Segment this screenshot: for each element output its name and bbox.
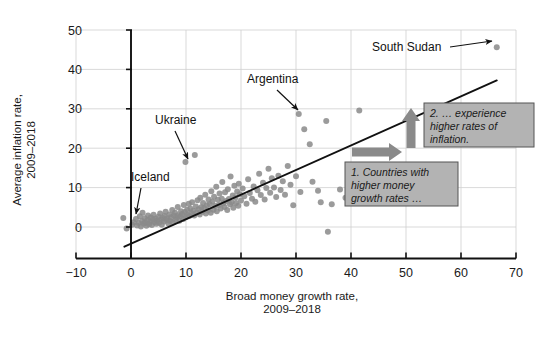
data-point bbox=[278, 187, 284, 193]
data-point bbox=[280, 178, 286, 184]
data-point bbox=[228, 174, 234, 180]
data-point bbox=[325, 229, 331, 235]
data-point bbox=[301, 126, 307, 132]
data-point bbox=[213, 184, 219, 190]
data-point bbox=[140, 210, 146, 216]
y-axis-title-line1: Average inflation rate, bbox=[11, 94, 23, 206]
data-point bbox=[329, 201, 335, 207]
callout-money-growth: 1. Countries withhigher moneygrowth rate… bbox=[345, 162, 458, 206]
data-point bbox=[315, 188, 321, 194]
y-tick-label: 20 bbox=[68, 142, 82, 156]
data-point bbox=[217, 191, 223, 197]
data-point bbox=[252, 199, 258, 205]
data-point bbox=[271, 185, 277, 191]
x-tick-label: 10 bbox=[179, 266, 193, 280]
callout-text-line: growth rates … bbox=[351, 192, 422, 204]
callout-inflation: 2. … experiencehigher rates ofinflation. bbox=[424, 103, 534, 147]
data-point bbox=[273, 194, 279, 200]
data-point bbox=[267, 190, 273, 196]
data-point bbox=[266, 166, 272, 172]
data-point bbox=[245, 176, 251, 182]
data-point bbox=[288, 182, 294, 188]
data-point bbox=[323, 118, 329, 124]
data-point bbox=[236, 181, 242, 187]
x-tick-label: 70 bbox=[509, 266, 523, 280]
data-point bbox=[225, 186, 231, 192]
y-tick-label: 40 bbox=[68, 63, 82, 77]
data-point bbox=[197, 195, 203, 201]
y-axis-title-line2: 2009–2018 bbox=[25, 121, 37, 179]
data-point bbox=[120, 215, 126, 221]
data-point bbox=[219, 179, 225, 185]
y-tick-label: 10 bbox=[68, 181, 82, 195]
data-point bbox=[494, 44, 500, 50]
callout-text-line: higher rates of bbox=[430, 120, 498, 132]
chart-background bbox=[0, 0, 543, 337]
data-point bbox=[285, 163, 291, 169]
data-point bbox=[296, 111, 302, 117]
y-tick-label: 0 bbox=[75, 221, 82, 235]
data-point bbox=[182, 159, 188, 165]
data-point bbox=[290, 202, 296, 208]
data-point bbox=[310, 179, 316, 185]
data-point bbox=[240, 185, 246, 191]
callout-text-line: 2. … experience bbox=[429, 107, 507, 119]
data-point bbox=[235, 203, 241, 209]
x-tick-label: 0 bbox=[128, 266, 135, 280]
country-label-ukraine: Ukraine bbox=[155, 113, 197, 127]
data-point bbox=[307, 141, 313, 147]
callout-text-line: higher money bbox=[351, 179, 415, 191]
data-point bbox=[224, 207, 230, 213]
data-point bbox=[282, 192, 288, 198]
data-point bbox=[263, 185, 269, 191]
country-label-argentina: Argentina bbox=[247, 72, 299, 86]
data-point bbox=[262, 196, 268, 202]
x-tick-label: 20 bbox=[234, 266, 248, 280]
callout-text-line: inflation. bbox=[430, 133, 469, 145]
data-point bbox=[356, 107, 362, 113]
x-tick-label: 40 bbox=[344, 266, 358, 280]
x-axis-title-line1: Broad money growth rate, bbox=[226, 290, 358, 302]
data-point bbox=[208, 188, 214, 194]
data-point bbox=[337, 187, 343, 193]
y-tick-label: 50 bbox=[68, 24, 82, 38]
x-tick-label: −10 bbox=[65, 266, 86, 280]
data-point bbox=[192, 152, 198, 158]
data-point bbox=[256, 171, 262, 177]
x-tick-label: 60 bbox=[454, 266, 468, 280]
x-axis-title-line2: 2009–2018 bbox=[263, 303, 321, 315]
data-point bbox=[244, 201, 250, 207]
x-tick-label: 50 bbox=[399, 266, 413, 280]
data-point bbox=[318, 199, 324, 205]
country-label-iceland: Iceland bbox=[131, 170, 170, 184]
callout-text-line: 1. Countries with bbox=[351, 166, 429, 178]
data-point bbox=[297, 189, 303, 195]
y-tick-label: 30 bbox=[68, 102, 82, 116]
scatter-chart: 01020304050 −10010203040506070 IcelandUk… bbox=[0, 0, 543, 337]
x-tick-label: 30 bbox=[289, 266, 303, 280]
chart-figure: 01020304050 −10010203040506070 IcelandUk… bbox=[0, 0, 543, 337]
data-point bbox=[293, 173, 299, 179]
country-label-south-sudan: South Sudan bbox=[372, 40, 441, 54]
